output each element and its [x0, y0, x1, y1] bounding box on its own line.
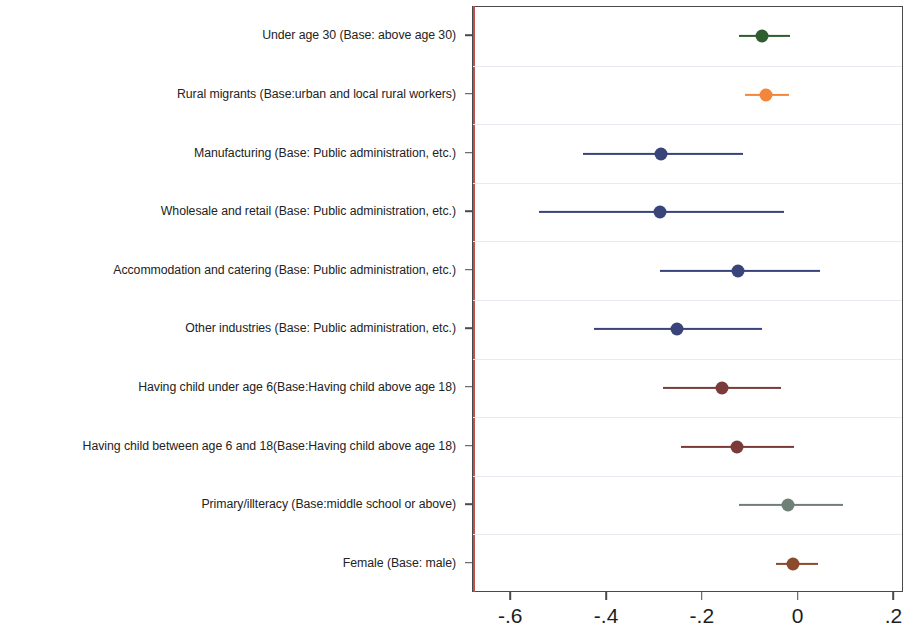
gridline — [473, 300, 902, 301]
estimate-marker — [755, 30, 768, 43]
category-label: Wholesale and retail (Base: Public admin… — [161, 204, 456, 218]
x-axis-tick — [893, 592, 895, 600]
estimate-marker — [731, 440, 744, 453]
gridline — [473, 241, 902, 242]
estimate-marker — [655, 147, 668, 160]
x-axis-tick-label: -.4 — [594, 604, 619, 628]
gridline — [473, 66, 902, 67]
category-label: Female (Base: male) — [343, 556, 456, 570]
category-label: Having child between age 6 and 18(Base:H… — [83, 439, 456, 453]
y-axis-tick — [465, 269, 472, 271]
category-label-column: Under age 30 (Base: above age 30)Rural m… — [0, 0, 466, 598]
gridline — [473, 359, 902, 360]
y-axis-tick — [465, 562, 472, 564]
x-axis-tick-label: .2 — [885, 604, 903, 628]
y-axis-tick — [465, 328, 472, 330]
estimate-marker — [782, 499, 795, 512]
estimate-marker — [654, 206, 667, 219]
category-label: Primary/illteracy (Base:middle school or… — [201, 497, 456, 511]
zero-reference-line — [473, 6, 475, 592]
x-axis-tick-label: 0 — [792, 604, 804, 628]
category-label: Rural migrants (Base:urban and local rur… — [177, 87, 456, 101]
x-axis-tick — [701, 592, 703, 600]
y-axis-tick — [465, 503, 472, 505]
y-axis-tick — [465, 386, 472, 388]
gridline — [473, 417, 902, 418]
y-axis-tick — [465, 210, 472, 212]
category-label: Other industries (Base: Public administr… — [185, 321, 456, 335]
estimate-marker — [732, 264, 745, 277]
estimate-marker — [759, 88, 772, 101]
x-axis-tick-label: -.2 — [690, 604, 715, 628]
x-axis-tick-label: -.6 — [498, 604, 523, 628]
gridline — [473, 476, 902, 477]
estimate-marker — [670, 323, 683, 336]
y-axis-tick — [465, 152, 472, 154]
gridline — [473, 534, 902, 535]
y-axis-tick — [465, 93, 472, 95]
y-axis-tick — [465, 35, 472, 37]
x-axis-tick — [605, 592, 607, 600]
category-label: Accommodation and catering (Base: Public… — [113, 263, 456, 277]
gridline — [473, 124, 902, 125]
y-axis-tick — [465, 445, 472, 447]
category-label: Manufacturing (Base: Public administrati… — [194, 146, 456, 160]
category-label: Having child under age 6(Base:Having chi… — [138, 380, 456, 394]
coefficient-plot-figure: Under age 30 (Base: above age 30)Rural m… — [0, 0, 909, 634]
plot-area — [472, 6, 903, 592]
estimate-marker — [786, 557, 799, 570]
category-label: Under age 30 (Base: above age 30) — [262, 28, 456, 42]
estimate-marker — [716, 381, 729, 394]
gridline — [473, 183, 902, 184]
x-axis-tick — [797, 592, 799, 600]
x-axis-tick — [510, 592, 512, 600]
